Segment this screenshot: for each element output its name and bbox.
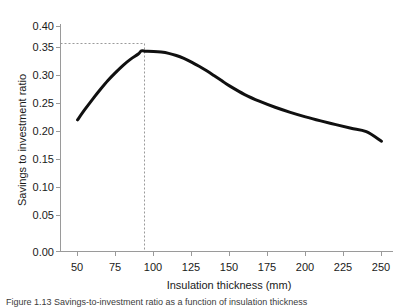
y-tick-label: 0.05	[33, 209, 54, 221]
x-tick-marks	[78, 252, 382, 257]
figure-caption: Figure 1.13 Savings-to-investment ratio …	[6, 297, 392, 307]
y-tick-label: 0.00	[33, 246, 54, 258]
y-tick-label: 0.20	[33, 125, 54, 137]
y-tick-label: 0.40	[33, 20, 54, 32]
x-tick-label: 175	[258, 261, 276, 273]
y-tick-marks	[56, 27, 61, 252]
figure-container: Savings to investment ratio 0.40 0.35 0.…	[0, 0, 398, 307]
y-tick-label: 0.30	[33, 69, 54, 81]
savings-ratio-curve	[78, 51, 382, 141]
x-tick-label: 100	[144, 261, 162, 273]
savings-to-investment-ratio-chart: Savings to investment ratio 0.40 0.35 0.…	[0, 0, 398, 307]
x-tick-label: 150	[220, 261, 238, 273]
y-tick-label: 0.10	[33, 181, 54, 193]
x-tick-label: 200	[296, 261, 314, 273]
x-axis-title: Insulation thickness (mm)	[167, 279, 292, 291]
y-tick-label: 0.25	[33, 97, 54, 109]
x-tick-label: 125	[182, 261, 200, 273]
y-axis-title: Savings to investment ratio	[16, 74, 28, 206]
x-tick-label: 50	[71, 261, 83, 273]
y-tick-label: 0.15	[33, 153, 54, 165]
y-tick-label: 0.35	[33, 41, 54, 53]
x-tick-label: 250	[372, 261, 390, 273]
x-tick-label: 75	[109, 261, 121, 273]
x-tick-label: 225	[334, 261, 352, 273]
